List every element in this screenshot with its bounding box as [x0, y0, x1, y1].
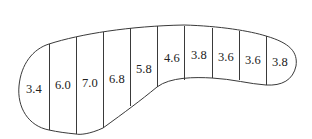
- segment-width-label: 3.6: [218, 50, 234, 64]
- segment-width-label: 3.8: [191, 48, 207, 62]
- segment-width-label: 6.8: [109, 72, 125, 86]
- segment-labels: 3.46.07.06.85.84.63.83.63.63.8: [26, 48, 288, 96]
- segment-width-label: 5.8: [136, 62, 152, 76]
- segment-width-label: 4.6: [164, 51, 180, 65]
- segment-width-label: 3.8: [272, 55, 288, 69]
- cross-section-diagram: 3.46.07.06.85.84.63.83.63.63.8: [0, 0, 312, 139]
- segment-width-label: 7.0: [82, 76, 98, 90]
- segment-width-label: 6.0: [55, 78, 71, 92]
- segment-width-label: 3.4: [26, 82, 42, 96]
- segment-width-label: 3.6: [245, 53, 261, 67]
